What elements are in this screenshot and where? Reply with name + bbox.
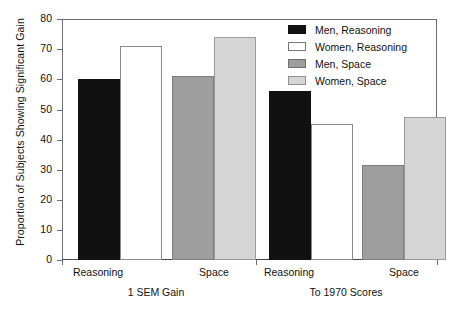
x-group-label-1sem-gain: 1 SEM Gain bbox=[106, 286, 206, 298]
y-tick-0: 0 bbox=[0, 260, 62, 261]
legend-label-women-reasoning: Women, Reasoning bbox=[315, 41, 407, 53]
legend-label-men-space: Men, Space bbox=[315, 58, 371, 70]
legend-item-men-reasoning: Men, Reasoning bbox=[288, 21, 407, 38]
y-tick-label-30: 30 bbox=[40, 163, 52, 175]
legend-label-women-space: Women, Space bbox=[315, 75, 387, 87]
legend-label-men-reasoning: Men, Reasoning bbox=[315, 24, 391, 36]
legend-swatch-women-space bbox=[288, 76, 306, 85]
x-tick-label-space-1970: Space bbox=[354, 266, 453, 278]
y-tick-80: 80 bbox=[0, 19, 62, 20]
bar-men-reasoning-1sem bbox=[78, 79, 120, 260]
legend-swatch-men-space bbox=[288, 59, 306, 68]
y-tick-30: 30 bbox=[0, 170, 62, 171]
x-tick-label-reasoning-1970: Reasoning bbox=[239, 266, 339, 278]
y-axis-title: Proportion of Subjects Showing Significa… bbox=[14, 8, 26, 256]
legend-item-women-space: Women, Space bbox=[288, 72, 407, 89]
legend-item-men-space: Men, Space bbox=[288, 55, 407, 72]
y-tick-20: 20 bbox=[0, 200, 62, 201]
y-tick-label-0: 0 bbox=[46, 253, 52, 265]
x-tick-mark bbox=[62, 260, 63, 265]
legend-item-women-reasoning: Women, Reasoning bbox=[288, 38, 407, 55]
x-tick-mark bbox=[437, 260, 438, 265]
bar-women-reasoning-1sem bbox=[120, 46, 162, 260]
y-tick-60: 60 bbox=[0, 79, 62, 80]
y-tick-50: 50 bbox=[0, 110, 62, 111]
legend: Men, Reasoning Women, Reasoning Men, Spa… bbox=[288, 21, 407, 89]
bar-men-space-1970 bbox=[362, 165, 404, 260]
x-tick-label-reasoning-1sem: Reasoning bbox=[48, 266, 148, 278]
y-tick-label-50: 50 bbox=[40, 103, 52, 115]
y-tick-label-10: 10 bbox=[40, 223, 52, 235]
y-tick-label-20: 20 bbox=[40, 193, 52, 205]
x-tick-mark bbox=[256, 260, 257, 265]
bar-men-space-1sem bbox=[172, 76, 214, 260]
bar-women-space-1sem bbox=[214, 37, 256, 260]
y-tick-10: 10 bbox=[0, 230, 62, 231]
legend-swatch-men-reasoning bbox=[288, 25, 306, 34]
bar-women-space-1970 bbox=[404, 117, 446, 260]
bar-women-reasoning-1970 bbox=[311, 124, 353, 260]
y-tick-label-60: 60 bbox=[40, 72, 52, 84]
bar-chart: Proportion of Subjects Showing Significa… bbox=[0, 0, 453, 310]
y-tick-label-40: 40 bbox=[40, 133, 52, 145]
x-group-label-to-1970-scores: To 1970 Scores bbox=[296, 286, 396, 298]
y-tick-label-70: 70 bbox=[40, 42, 52, 54]
y-tick-label-80: 80 bbox=[40, 12, 52, 24]
legend-swatch-women-reasoning bbox=[288, 42, 306, 51]
bar-men-reasoning-1970 bbox=[269, 91, 311, 260]
y-tick-70: 70 bbox=[0, 49, 62, 50]
y-tick-40: 40 bbox=[0, 140, 62, 141]
